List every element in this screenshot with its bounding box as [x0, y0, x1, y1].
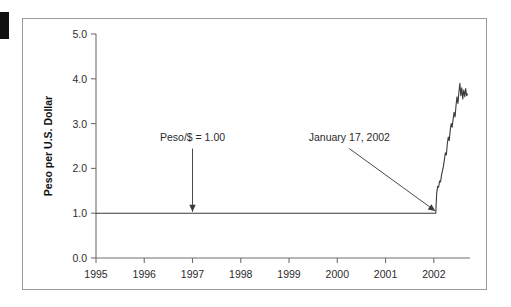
y-axis-title: Peso per U.S. Dollar — [42, 96, 54, 196]
x-tick-label: 1999 — [277, 268, 301, 280]
devaluation-annotation-arrow — [349, 149, 435, 211]
x-tick-label: 1998 — [229, 268, 253, 280]
peg-annotation-label: Peso/$ = 1.00 — [160, 131, 225, 143]
x-tick-label: 1997 — [181, 268, 205, 280]
y-tick-label: 5.0 — [72, 28, 87, 40]
peg-annotation-arrowhead — [189, 205, 195, 212]
y-tick-label: 4.0 — [72, 73, 87, 85]
y-tick-label: 0.0 — [72, 252, 87, 264]
x-tick-label: 2000 — [326, 268, 350, 280]
x-tick-label: 1995 — [84, 268, 108, 280]
y-tick-label: 3.0 — [72, 118, 87, 130]
chart-plot: 0.01.02.03.04.05.01995199619971998199920… — [0, 0, 511, 307]
x-tick-label: 2002 — [422, 268, 446, 280]
y-tick-label: 2.0 — [72, 162, 87, 174]
devaluation-annotation-label: January 17, 2002 — [309, 131, 390, 143]
x-tick-label: 1996 — [133, 268, 157, 280]
devaluation-annotation-arrowhead — [428, 204, 436, 211]
figure-container: 0.01.02.03.04.05.01995199619971998199920… — [0, 0, 511, 307]
y-tick-label: 1.0 — [72, 207, 87, 219]
x-tick-label: 2001 — [374, 268, 398, 280]
